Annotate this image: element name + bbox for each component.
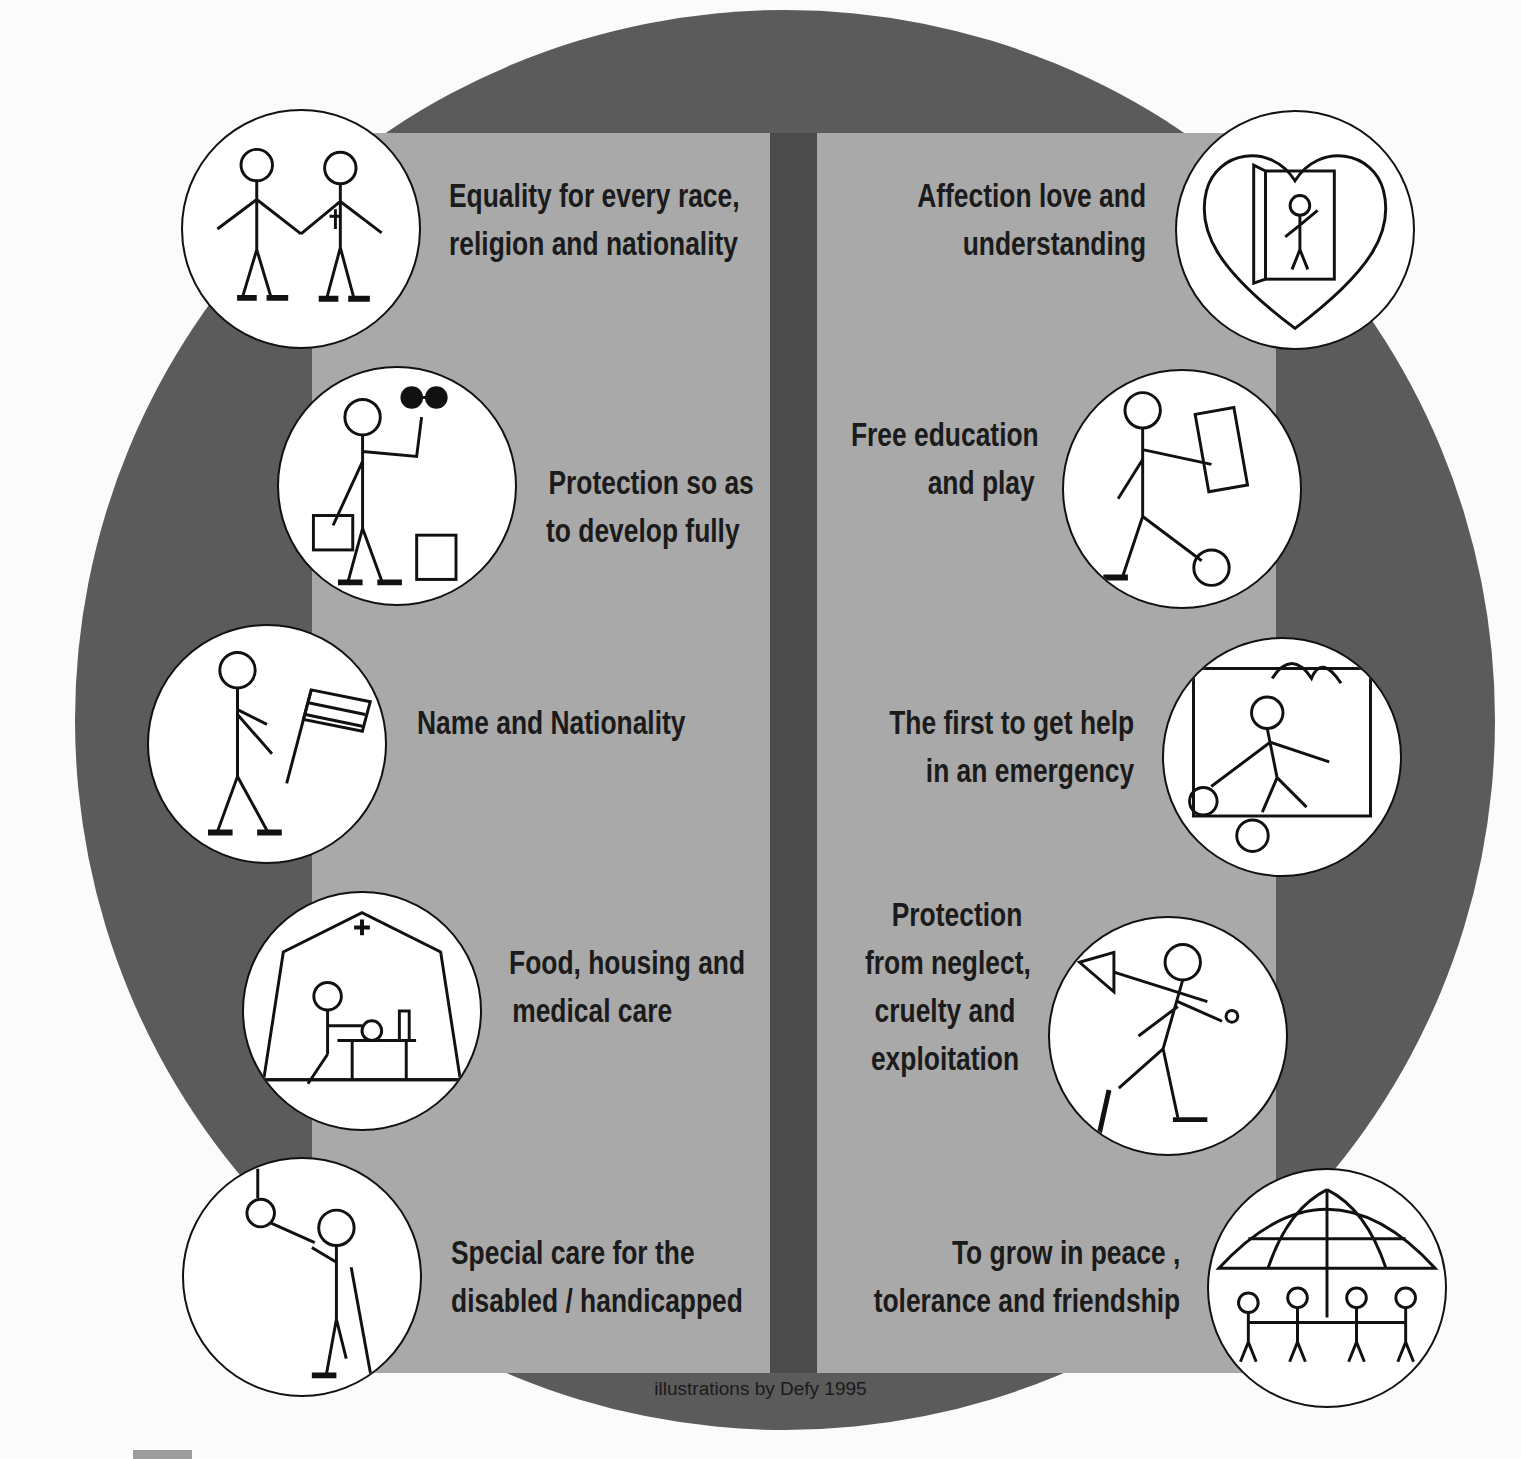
right-affection: Affection love and understanding: [917, 172, 1146, 268]
right-special-care: Special care for the disabled / handicap…: [451, 1229, 743, 1325]
right-line: religion and nationality: [449, 220, 740, 268]
illustration-credit: illustrations by Defy 1995: [0, 1378, 1521, 1400]
child-eating-in-tent-icon: [242, 891, 482, 1131]
right-protection-develop: Protection so as to develop fully: [546, 459, 754, 555]
right-name-nationality: Name and Nationality: [417, 699, 685, 747]
right-peace: To grow in peace , tolerance and friends…: [873, 1229, 1180, 1325]
right-line: Special care for the: [451, 1229, 743, 1277]
child-with-book-and-ball-icon: [1062, 369, 1302, 609]
right-line: The first to get help: [889, 699, 1134, 747]
child-with-shovel-icon: [1048, 916, 1288, 1156]
child-with-flag-icon: [147, 624, 387, 864]
corner-mark: [133, 1450, 192, 1459]
right-line: medical care: [509, 987, 745, 1035]
right-line: Food, housing and: [509, 939, 745, 987]
right-line: from neglect,: [865, 939, 1025, 987]
right-line: tolerance and friendship: [873, 1277, 1180, 1325]
right-line: Name and Nationality: [417, 699, 685, 747]
right-line: Protection: [865, 891, 1025, 939]
child-on-crutches-icon: [182, 1157, 422, 1397]
right-line: exploitation: [865, 1035, 1025, 1083]
right-line: disabled / handicapped: [451, 1277, 743, 1325]
right-line: cruelty and: [865, 987, 1025, 1035]
right-education: Free education and play: [851, 411, 1039, 507]
child-with-dumbbell-icon: [277, 366, 517, 606]
right-line: Protection so as: [546, 459, 754, 507]
right-line: in an emergency: [889, 747, 1134, 795]
right-line: understanding: [917, 220, 1146, 268]
right-line: to develop fully: [546, 507, 754, 555]
children-holding-hands-icon: [181, 109, 421, 349]
children-under-globe-umbrella-icon: [1207, 1168, 1447, 1408]
right-emergency-help: The first to get help in an emergency: [889, 699, 1134, 795]
child-rescued-from-fire-icon: [1162, 637, 1402, 877]
right-food-housing: Food, housing and medical care: [509, 939, 745, 1035]
right-line: Affection love and: [917, 172, 1146, 220]
right-equality: Equality for every race, religion and na…: [449, 172, 740, 268]
right-protection-neglect: Protection from neglect, cruelty and exp…: [865, 891, 1025, 1083]
right-line: To grow in peace ,: [873, 1229, 1180, 1277]
center-divider: [770, 133, 817, 1373]
right-line: Equality for every race,: [449, 172, 740, 220]
right-line: Free education: [851, 411, 1039, 459]
heart-with-child-icon: [1175, 110, 1415, 350]
right-line: and play: [851, 459, 1039, 507]
